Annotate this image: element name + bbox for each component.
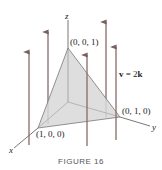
vertex-label-left: (1, 0, 0)	[36, 130, 65, 139]
x-axis	[14, 128, 38, 148]
vector-field-label: v = 2k	[119, 70, 143, 79]
figure-caption: FIGURE 16	[0, 157, 162, 166]
vertex-label-top: (0, 0, 1)	[70, 38, 99, 47]
z-axis-label: z	[65, 12, 69, 21]
vertex-label-right: (0, 1, 0)	[122, 107, 151, 116]
diagram-canvas	[0, 0, 162, 170]
x-axis-label: x	[9, 146, 13, 155]
y-axis	[120, 117, 150, 126]
y-axis-label: y	[152, 123, 156, 132]
triangular-surface	[38, 48, 120, 128]
